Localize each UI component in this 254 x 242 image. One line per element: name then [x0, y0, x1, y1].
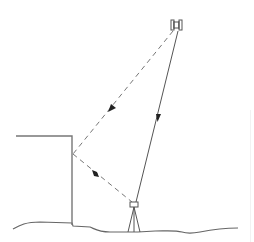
receiver-icon: [128, 202, 140, 232]
direct-signal-arrow-icon: [156, 114, 161, 122]
reflected-signal-incoming: [73, 31, 173, 154]
multipath-diagram: [0, 0, 254, 242]
reflected-outgoing-arrow-icon: [92, 170, 99, 177]
building-outline: [16, 136, 72, 225]
satellite-icon: [171, 20, 182, 30]
ground-line: [13, 222, 238, 233]
reflected-incoming-arrow-icon: [108, 104, 116, 112]
reflected-signal-outgoing: [73, 154, 132, 202]
